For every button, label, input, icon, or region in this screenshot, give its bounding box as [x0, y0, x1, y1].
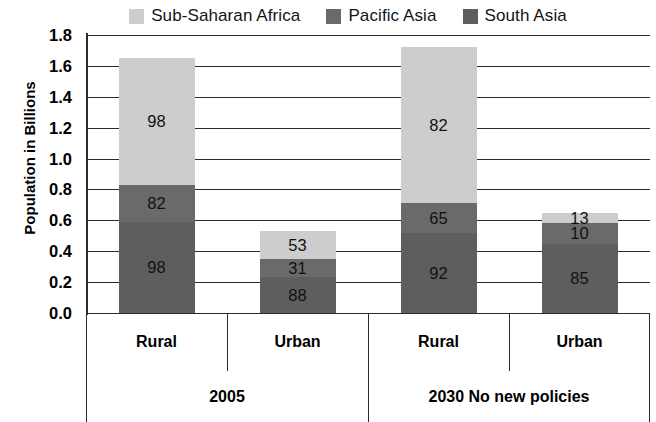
y-tick-label: 1.8: [49, 26, 72, 45]
x-axis-group-row: 20052030 No new policies: [86, 371, 650, 422]
y-tick-label: 1.2: [49, 118, 72, 137]
category-divider: [509, 313, 510, 371]
bar-segment-value-label: 31: [288, 260, 306, 277]
group-divider: [86, 371, 87, 422]
stacked-bar-chart: Sub-Saharan Africa Pacific Asia South As…: [0, 0, 656, 422]
legend-swatch-pacific-asia: [326, 9, 341, 24]
legend-item-south-asia: South Asia: [463, 6, 567, 26]
bar-segment-value-label: 10: [570, 225, 588, 242]
bar-segment: 92: [401, 233, 477, 313]
bar-segment-value-label: 53: [288, 237, 306, 254]
y-tick-label: 0.0: [49, 304, 72, 323]
x-axis-category-row: RuralUrbanRuralUrban: [86, 313, 650, 371]
legend-swatch-sub-saharan-africa: [129, 9, 144, 24]
x-axis-category-label: Rural: [368, 313, 509, 371]
x-axis-group-label: 2030 No new policies: [368, 371, 650, 422]
y-tick-label: 0.8: [49, 180, 72, 199]
bar-segment: 82: [119, 185, 195, 222]
grid-line: [86, 35, 650, 36]
y-tick-label: 1.4: [49, 87, 72, 106]
x-axis-group-label: 2005: [86, 371, 368, 422]
bar-segment-value-label: 88: [288, 287, 306, 304]
bar-segment-value-label: 92: [429, 265, 447, 282]
bar-segment: 31: [260, 259, 336, 278]
bar-segment-value-label: 82: [147, 195, 165, 212]
bar-segment-value-label: 65: [429, 210, 447, 227]
legend-label-south-asia: South Asia: [485, 6, 567, 26]
bar-segment: 13: [542, 213, 618, 224]
bar-segment: 98: [119, 222, 195, 313]
plot-area: 988298883153926582851013: [86, 35, 650, 313]
y-tick-label: 1.0: [49, 149, 72, 168]
bar-segment-value-label: 13: [570, 210, 588, 227]
y-tick-label: 0.4: [49, 242, 72, 261]
bar-segment-value-label: 82: [429, 117, 447, 134]
group-divider: [368, 371, 369, 422]
legend-item-sub-saharan-africa: Sub-Saharan Africa: [129, 6, 300, 26]
chart-legend: Sub-Saharan Africa Pacific Asia South As…: [0, 4, 656, 28]
x-axis-category-label: Urban: [227, 313, 368, 371]
bar-segment-value-label: 98: [147, 259, 165, 276]
group-divider: [649, 371, 650, 422]
category-divider: [86, 313, 87, 371]
bar-urban-2030: 851013: [542, 213, 618, 313]
legend-item-pacific-asia: Pacific Asia: [326, 6, 436, 26]
legend-label-pacific-asia: Pacific Asia: [348, 6, 436, 26]
bar-segment: 65: [401, 203, 477, 232]
y-tick-label: 0.6: [49, 211, 72, 230]
bar-segment: 98: [119, 58, 195, 185]
category-divider: [649, 313, 650, 371]
bar-urban-2005: 883153: [260, 231, 336, 313]
x-axis-category-label: Urban: [509, 313, 650, 371]
legend-swatch-south-asia: [463, 9, 478, 24]
bar-rural-2030: 926582: [401, 47, 477, 313]
bar-rural-2005: 988298: [119, 58, 195, 313]
bar-segment-value-label: 85: [570, 270, 588, 287]
category-divider: [368, 313, 369, 371]
bar-segment: 85: [542, 244, 618, 314]
y-axis-tick-labels: 1.81.61.41.21.00.80.60.40.20.0: [0, 35, 80, 313]
bar-segment-value-label: 98: [147, 113, 165, 130]
y-tick-label: 1.6: [49, 56, 72, 75]
bar-segment: 88: [260, 277, 336, 313]
x-axis-category-label: Rural: [86, 313, 227, 371]
y-tick-label: 0.2: [49, 273, 72, 292]
category-divider: [227, 313, 228, 371]
legend-label-sub-saharan-africa: Sub-Saharan Africa: [151, 6, 300, 26]
bar-segment: 53: [260, 231, 336, 259]
bar-segment: 82: [401, 47, 477, 203]
